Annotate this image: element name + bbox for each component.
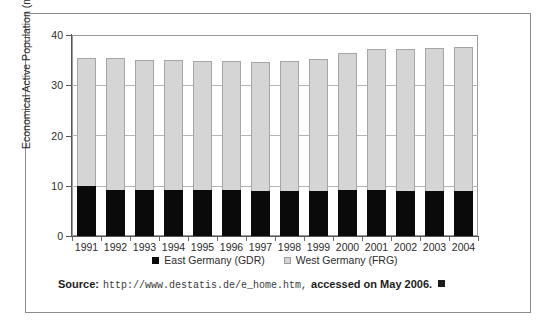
y-axis-title: Economical Active Population (millions) [20, 0, 32, 149]
plot-area [72, 35, 478, 236]
x-axis-tick-label: 2004 [450, 241, 478, 253]
bar-segment-east-germany[interactable] [251, 191, 270, 236]
bar-segment-east-germany[interactable] [193, 190, 212, 236]
x-axis-tick-label: 1992 [102, 241, 130, 253]
x-axis-tick-label: 1999 [305, 241, 333, 253]
bar-group[interactable] [106, 35, 125, 236]
figure-container: 40 30 20 10 0 Economical Active Populati… [0, 0, 559, 331]
x-axis-tick-label: 1997 [247, 241, 275, 253]
bar-segment-west-germany[interactable] [454, 47, 473, 191]
x-axis-tick-label: 1996 [218, 241, 246, 253]
x-axis-tick-label: 1993 [131, 241, 159, 253]
source-url[interactable]: http://www.destatis.de/e_home.htm, [103, 280, 307, 291]
bar-group[interactable] [396, 35, 415, 236]
bar-segment-east-germany[interactable] [222, 190, 241, 236]
bar-segment-west-germany[interactable] [396, 49, 415, 191]
bar-group[interactable] [280, 35, 299, 236]
bar-segment-west-germany[interactable] [193, 61, 212, 190]
bar-series-layer [72, 35, 478, 236]
legend-item-label: West Germany (FRG) [296, 254, 398, 266]
bar-group[interactable] [135, 35, 154, 236]
bar-segment-east-germany[interactable] [106, 190, 125, 236]
x-axis-tick-label: 2002 [392, 241, 420, 253]
bar-group[interactable] [454, 35, 473, 236]
bar-segment-west-germany[interactable] [77, 58, 96, 186]
bar-segment-west-germany[interactable] [309, 59, 328, 191]
y-axis-tick-label: 10 [19, 181, 63, 191]
x-axis-tick-label: 1994 [160, 241, 188, 253]
bar-segment-west-germany[interactable] [338, 53, 357, 191]
x-axis-tick-label: 1991 [73, 241, 101, 253]
bar-segment-east-germany[interactable] [338, 190, 357, 236]
x-axis-tick-mark [478, 237, 479, 241]
bar-group[interactable] [425, 35, 444, 236]
bar-segment-east-germany[interactable] [367, 190, 386, 236]
bar-group[interactable] [164, 35, 183, 236]
x-axis-tick-label: 2000 [334, 241, 362, 253]
bar-segment-west-germany[interactable] [106, 58, 125, 190]
x-axis-tick-label: 2003 [421, 241, 449, 253]
bar-segment-east-germany[interactable] [164, 190, 183, 236]
legend-item-label: East Germany (GDR) [164, 254, 264, 266]
bar-segment-west-germany[interactable] [367, 49, 386, 190]
bar-segment-west-germany[interactable] [280, 61, 299, 191]
bar-segment-west-germany[interactable] [164, 60, 183, 191]
bar-segment-east-germany[interactable] [454, 191, 473, 236]
bar-group[interactable] [222, 35, 241, 236]
source-note: Source: http://www.destatis.de/e_home.ht… [58, 278, 445, 291]
bar-group[interactable] [251, 35, 270, 236]
chart-legend: East Germany (GDR) West Germany (FRG) [72, 254, 478, 266]
bar-segment-west-germany[interactable] [222, 61, 241, 190]
bar-segment-east-germany[interactable] [77, 186, 96, 236]
bar-group[interactable] [77, 35, 96, 236]
x-axis-tick-label: 1998 [276, 241, 304, 253]
bar-segment-west-germany[interactable] [251, 62, 270, 191]
x-axis-tick-label-group: 1991199219931994199519961997199819992000… [72, 241, 478, 253]
legend-swatch-outlined-square-icon [284, 257, 291, 264]
legend-item-west-germany: West Germany (FRG) [284, 254, 398, 266]
bar-segment-west-germany[interactable] [425, 48, 444, 191]
bar-group[interactable] [193, 35, 212, 236]
bar-group[interactable] [338, 35, 357, 236]
source-prefix: Source: [58, 278, 99, 290]
bar-segment-east-germany[interactable] [425, 191, 444, 236]
y-axis-tick-label: 0 [19, 231, 63, 241]
bar-group[interactable] [309, 35, 328, 236]
legend-swatch-filled-square-icon [152, 257, 159, 264]
bar-segment-east-germany[interactable] [135, 190, 154, 236]
bar-segment-east-germany[interactable] [309, 191, 328, 236]
bar-segment-west-germany[interactable] [135, 60, 154, 191]
bar-group[interactable] [367, 35, 386, 236]
x-axis-tick-label: 2001 [363, 241, 391, 253]
legend-item-east-germany: East Germany (GDR) [152, 254, 264, 266]
end-of-note-square-icon [438, 280, 445, 287]
bar-segment-east-germany[interactable] [280, 191, 299, 236]
source-suffix: accessed on May 2006. [311, 278, 432, 290]
x-axis-tick-label: 1995 [189, 241, 217, 253]
bar-segment-east-germany[interactable] [396, 191, 415, 236]
